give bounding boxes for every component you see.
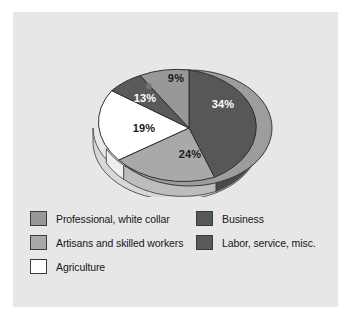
pie-value-label-professional: 9%: [168, 72, 184, 84]
legend-label-professional: Professional, white collar: [56, 213, 170, 225]
legend-item-agriculture[interactable]: Agriculture: [30, 256, 183, 277]
legend-swatch-agriculture: [30, 259, 47, 274]
pie-value-label-artisans: 24%: [179, 148, 202, 160]
screenshot-frame: 34% 24% 19% 13% 9% Professional, white c…: [0, 0, 351, 319]
legend-swatch-labor: [196, 235, 213, 250]
legend-label-labor: Labor, service, misc.: [222, 237, 316, 249]
legend-swatch-business: [196, 211, 213, 226]
pie-value-label-business: 34%: [212, 98, 235, 110]
legend-label-business: Business: [222, 213, 264, 225]
legend-item-artisans[interactable]: Artisans and skilled workers: [30, 232, 183, 253]
legend-column-left: Professional, white collar Artisans and …: [30, 208, 183, 280]
legend-item-labor[interactable]: Labor, service, misc.: [196, 232, 316, 253]
legend-label-artisans: Artisans and skilled workers: [56, 237, 183, 249]
slice-highlight-speck: [146, 82, 152, 89]
pie-chart: 34% 24% 19% 13% 9%: [13, 12, 338, 197]
legend-swatch-professional: [30, 211, 47, 226]
legend-label-agriculture: Agriculture: [56, 261, 105, 273]
pie-value-label-agriculture: 19%: [133, 122, 156, 134]
legend-item-business[interactable]: Business: [196, 208, 316, 229]
pie-value-label-labor: 13%: [134, 92, 157, 104]
chart-legend: Professional, white collar Artisans and …: [13, 208, 338, 303]
legend-swatch-artisans: [30, 235, 47, 250]
pie-chart-svg: 34% 24% 19% 13% 9%: [13, 12, 338, 197]
legend-item-professional[interactable]: Professional, white collar: [30, 208, 183, 229]
legend-column-right: Business Labor, service, misc.: [196, 208, 316, 256]
chart-card: 34% 24% 19% 13% 9% Professional, white c…: [13, 12, 338, 307]
